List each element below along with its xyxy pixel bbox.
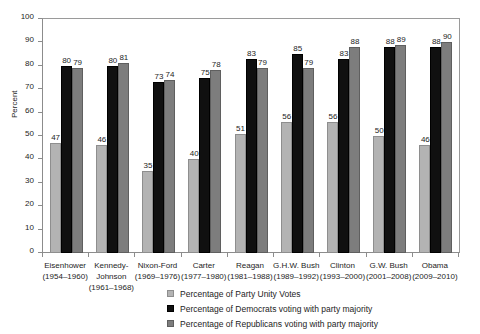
x-axis-group-label: Obama(2009–2010) bbox=[409, 260, 461, 282]
bar-value-label: 79 bbox=[67, 58, 89, 67]
y-axis-tick-label: 80 bbox=[25, 59, 34, 68]
legend-swatch bbox=[167, 305, 174, 312]
legend-swatch bbox=[167, 320, 174, 327]
y-axis-tick-label: 30 bbox=[25, 176, 34, 185]
x-axis-group-label: G.W. Bush(2001–2008) bbox=[363, 260, 415, 282]
x-axis-label-line: (1969–1976) bbox=[131, 271, 183, 282]
bar bbox=[257, 68, 268, 253]
x-axis-tick-mark bbox=[227, 253, 228, 257]
y-axis: 1009080706050403020100 bbox=[0, 18, 42, 254]
bar-group: 468081 bbox=[96, 19, 129, 253]
bar bbox=[153, 82, 164, 253]
bar bbox=[199, 78, 210, 254]
y-axis-title: Percent bbox=[10, 90, 19, 118]
bar-group: 478079 bbox=[50, 19, 83, 253]
y-axis-tick-label: 40 bbox=[25, 152, 34, 161]
x-axis-tick-mark bbox=[134, 253, 135, 257]
bar-chart: 1009080706050403020100 Percent 478079468… bbox=[0, 0, 480, 334]
legend-label: Percentage of Democrats voting with part… bbox=[180, 304, 372, 314]
legend-label: Percentage of Republicans voting with pa… bbox=[180, 319, 378, 329]
y-axis-tick-mark bbox=[38, 205, 42, 206]
bar-group: 568579 bbox=[281, 19, 314, 253]
bar bbox=[349, 47, 360, 253]
x-axis-group-label: Carter(1977–1980) bbox=[178, 260, 230, 282]
bar-value-label: 89 bbox=[390, 35, 412, 44]
bar-group: 468890 bbox=[419, 19, 452, 253]
bar bbox=[235, 134, 246, 253]
x-axis-label-line: (1989–1992) bbox=[270, 271, 322, 282]
y-axis-tick-label: 100 bbox=[21, 12, 34, 21]
x-axis-label-line: G.W. Bush bbox=[363, 260, 415, 271]
bar bbox=[373, 136, 384, 253]
y-axis-tick-mark bbox=[38, 88, 42, 89]
bar bbox=[292, 54, 303, 253]
x-axis-label-line: G.H.W. Bush bbox=[270, 260, 322, 271]
bars-layer: 4780794680813573744075785183795685795683… bbox=[43, 19, 459, 253]
x-axis-tick-mark bbox=[88, 253, 89, 257]
bar bbox=[164, 80, 175, 253]
legend-label: Percentage of Party Unity Votes bbox=[180, 289, 300, 299]
y-axis-tick-mark bbox=[38, 182, 42, 183]
bar-value-label: 79 bbox=[298, 58, 320, 67]
bar bbox=[50, 143, 61, 253]
bar bbox=[441, 42, 452, 253]
bar-value-label: 85 bbox=[287, 44, 309, 53]
bar-value-label: 88 bbox=[344, 37, 366, 46]
x-axis-label-line: Carter bbox=[178, 260, 230, 271]
bar bbox=[395, 45, 406, 253]
x-axis-group-label: Nixon-Ford(1969–1976) bbox=[131, 260, 183, 282]
y-axis-tick-label: 70 bbox=[25, 82, 34, 91]
x-axis-label-line: Clinton bbox=[316, 260, 368, 271]
y-axis-tick-mark bbox=[38, 229, 42, 230]
y-axis-tick-mark bbox=[38, 135, 42, 136]
bar-value-label: 78 bbox=[205, 60, 227, 69]
bar-value-label: 81 bbox=[113, 53, 135, 62]
y-axis-tick-label: 50 bbox=[25, 129, 34, 138]
bar-value-label: 74 bbox=[159, 70, 181, 79]
bar bbox=[384, 47, 395, 253]
x-axis-group-label: Eisenhower(1954–1960) bbox=[39, 260, 91, 282]
x-axis-tick-mark bbox=[319, 253, 320, 257]
bar bbox=[281, 122, 292, 253]
bar bbox=[210, 70, 221, 253]
y-axis-tick-label: 60 bbox=[25, 106, 34, 115]
x-axis-tick-mark bbox=[42, 253, 43, 257]
x-axis-group-label: Reagan(1981–1988) bbox=[224, 260, 276, 282]
bar bbox=[246, 59, 257, 253]
y-axis-tick-mark bbox=[38, 65, 42, 66]
x-axis-tick-mark bbox=[412, 253, 413, 257]
bar-value-label: 83 bbox=[241, 49, 263, 58]
bar bbox=[96, 145, 107, 253]
x-axis-tick-mark bbox=[273, 253, 274, 257]
x-axis-label-line: (2009–2010) bbox=[409, 271, 461, 282]
x-axis-label-line: (1961–1968) bbox=[85, 282, 137, 293]
y-axis-tick-label: 10 bbox=[25, 223, 34, 232]
bar bbox=[118, 63, 129, 253]
y-axis-tick-mark bbox=[38, 41, 42, 42]
x-axis-label-line: Obama bbox=[409, 260, 461, 271]
x-axis-label-line: (1977–1980) bbox=[178, 271, 230, 282]
bar-value-label: 90 bbox=[436, 32, 458, 41]
bar-group: 357374 bbox=[142, 19, 175, 253]
bar bbox=[327, 122, 338, 253]
bar-group: 508889 bbox=[373, 19, 406, 253]
bar-group: 568388 bbox=[327, 19, 360, 253]
bar bbox=[188, 159, 199, 253]
y-axis-tick-label: 20 bbox=[25, 199, 34, 208]
bar bbox=[303, 68, 314, 253]
x-axis-tick-mark bbox=[458, 253, 459, 257]
legend-item: Percentage of Democrats voting with part… bbox=[167, 301, 467, 316]
x-axis-label-line: (1981–1988) bbox=[224, 271, 276, 282]
x-axis-label-line: Eisenhower bbox=[39, 260, 91, 271]
bar bbox=[338, 59, 349, 253]
legend-item: Percentage of Party Unity Votes bbox=[167, 286, 467, 301]
x-axis-label-line: Johnson bbox=[85, 271, 137, 282]
x-axis-label-line: (1954–1960) bbox=[39, 271, 91, 282]
bar-value-label: 79 bbox=[252, 58, 274, 67]
chart-legend: Percentage of Party Unity VotesPercentag… bbox=[167, 286, 467, 331]
x-axis-group-label: G.H.W. Bush(1989–1992) bbox=[270, 260, 322, 282]
y-axis-tick-mark bbox=[38, 112, 42, 113]
x-axis-label-line: (2001–2008) bbox=[363, 271, 415, 282]
x-axis-tick-mark bbox=[366, 253, 367, 257]
bar bbox=[107, 66, 118, 253]
